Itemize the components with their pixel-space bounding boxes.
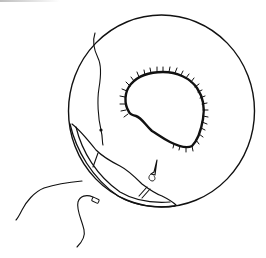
loose-thread-left xyxy=(16,181,82,220)
needle xyxy=(149,160,157,181)
suture-thread-top xyxy=(94,33,103,145)
suture-knot xyxy=(99,128,102,131)
central-defect xyxy=(120,67,208,152)
illustration xyxy=(0,0,266,258)
thread-tag xyxy=(91,197,99,204)
outer-circle xyxy=(69,15,255,207)
loose-thread-bottom xyxy=(77,196,99,247)
